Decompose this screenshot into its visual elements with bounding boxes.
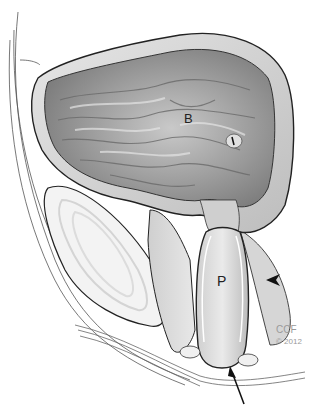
prostate [196,228,248,369]
label-bladder: B [184,111,193,126]
credit-org: CCF [276,324,297,335]
pubic-bone [44,186,165,326]
anatomy-drawing: B P CCF © 2012 [0,0,310,409]
ureteral-orifice [226,134,242,148]
credit-year: © 2012 [276,337,302,346]
label-prostate: P [217,273,226,289]
illustration: B P CCF © 2012 [0,0,310,409]
apex-arrow [228,366,244,404]
